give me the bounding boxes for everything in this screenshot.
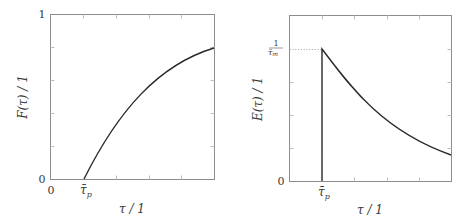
svg-text:τ̄m: τ̄m — [268, 48, 278, 57]
figure: 1 0 0 τ̄p τ / 1 F(τ) / 1 — [0, 0, 469, 221]
left-plot-frame — [51, 15, 215, 180]
left-cdf-curve — [84, 48, 214, 179]
right-x-axis-label: τ / 1 — [357, 203, 383, 217]
right-chart: 0 1 τ̄m τ̄p τ / 1 E(τ) / 1 — [251, 16, 452, 218]
right-y-tick-0: 0 — [278, 175, 285, 188]
left-y-tick-0: 0 — [39, 173, 46, 186]
right-plot-frame — [290, 16, 452, 182]
right-top-ticks — [323, 16, 420, 20]
left-bottom-ticks — [117, 176, 182, 180]
right-y-ticks — [290, 83, 294, 149]
left-y-ticks — [51, 48, 55, 147]
left-y-tick-1: 1 — [39, 8, 46, 21]
right-right-ticks — [448, 50, 452, 149]
right-y-axis-label: E(τ) / 1 — [251, 77, 265, 122]
left-x-axis-label: τ / 1 — [119, 202, 145, 216]
left-x-tick-tp: τ̄p — [80, 183, 92, 199]
right-bottom-ticks — [355, 178, 420, 182]
right-pdf-curve — [322, 49, 451, 181]
left-top-ticks — [84, 15, 182, 19]
left-chart: 1 0 0 τ̄p τ / 1 F(τ) / 1 — [16, 8, 215, 216]
left-y-axis-label: F(τ) / 1 — [16, 75, 30, 120]
right-x-tick-tp: τ̄p — [318, 185, 330, 201]
right-y-tick-peak: 1 τ̄m — [268, 39, 283, 57]
left-x-tick-0: 0 — [48, 184, 55, 197]
svg-text:1: 1 — [273, 39, 278, 48]
left-right-ticks — [211, 48, 215, 147]
